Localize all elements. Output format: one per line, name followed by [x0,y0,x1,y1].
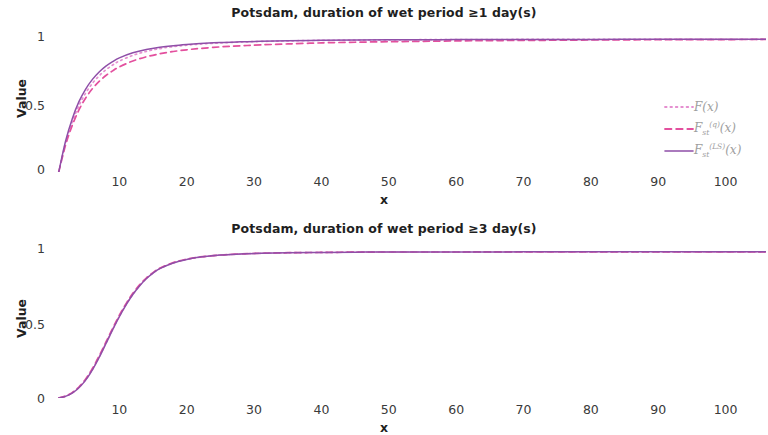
legend-item: Fst(LS)(x) [664,140,768,162]
x-tick-0-90: 90 [650,174,666,189]
plot-area-top [52,34,766,172]
legend-item: Fst(q)(x) [664,118,768,140]
series-line [59,39,766,172]
series-line [59,252,766,398]
y-tick-bottom-0: 0 [5,391,45,406]
legend-line-swatch [664,101,694,113]
x-tick-1-100: 100 [714,402,738,417]
legend-line-swatch [664,145,694,157]
series-line [59,252,766,398]
x-tick-0-10: 10 [111,174,127,189]
y-tick-bottom-0.5: 0.5 [5,317,45,332]
x-tick-0-30: 30 [246,174,262,189]
x-tick-1-70: 70 [516,402,532,417]
curves-bottom [52,246,766,398]
x-tick-1-30: 30 [246,402,262,417]
legend-label: F(x) [694,101,718,113]
x-tick-1-80: 80 [583,402,599,417]
legend-item: F(x) [664,96,768,118]
chart-panel-top: Potsdam, duration of wet period ≥1 day(s… [0,0,768,218]
x-tick-0-40: 40 [313,174,329,189]
x-tick-1-90: 90 [650,402,666,417]
series-line [59,252,766,398]
y-tick-top-1: 1 [5,29,45,44]
x-tick-1-60: 60 [448,402,464,417]
x-tick-0-20: 20 [179,174,195,189]
x-tick-0-80: 80 [583,174,599,189]
x-axis-ticks-bottom: 102030405060708090100 [52,402,766,420]
x-tick-0-50: 50 [381,174,397,189]
x-tick-1-50: 50 [381,402,397,417]
x-axis-ticks-top: 102030405060708090100 [52,174,766,192]
x-tick-1-10: 10 [111,402,127,417]
y-tick-bottom-1: 1 [5,241,45,256]
legend-line-swatch [664,123,694,135]
chart-title-bottom: Potsdam, duration of wet period ≥3 day(s… [0,221,768,236]
y-tick-top-0: 0 [5,162,45,177]
x-axis-label-top: x [0,192,768,207]
series-line [59,39,766,172]
chart-panel-bottom: Potsdam, duration of wet period ≥3 day(s… [0,216,768,435]
x-tick-1-20: 20 [179,402,195,417]
x-tick-0-100: 100 [714,174,738,189]
x-tick-1-40: 40 [313,402,329,417]
plot-area-bottom [52,246,766,398]
chart-title-top: Potsdam, duration of wet period ≥1 day(s… [0,5,768,20]
legend-label: Fst(LS)(x) [694,143,741,159]
legend-label: Fst(q)(x) [694,121,736,137]
y-tick-top-0.5: 0.5 [5,98,45,113]
x-tick-0-70: 70 [516,174,532,189]
curves-top [52,34,766,172]
x-tick-0-60: 60 [448,174,464,189]
series-line [59,39,766,172]
x-axis-label-bottom: x [0,420,768,435]
legend-top: F(x)Fst(q)(x)Fst(LS)(x) [664,96,768,162]
